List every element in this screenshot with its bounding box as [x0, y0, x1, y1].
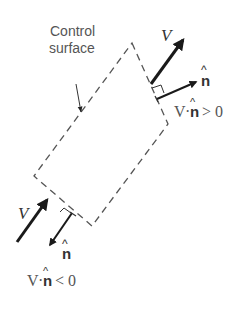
label-pointer-arrow [76, 84, 81, 112]
outflow-relation: V · n ^ > 0 [174, 96, 223, 120]
control-surface-label-line2: surface [49, 40, 95, 56]
svg-text:> 0: > 0 [202, 103, 223, 120]
control-surface-diagram: Control surface V n ^ V · n ^ > 0 V n ^ … [0, 0, 243, 312]
inflow-normal-arrow [50, 213, 72, 245]
inflow-normal-hat: ^ [62, 237, 68, 251]
inflow-velocity-label: V [18, 204, 31, 223]
svg-text:< 0: < 0 [55, 272, 76, 289]
svg-text:^: ^ [43, 265, 49, 277]
outflow-normal-hat: ^ [201, 63, 207, 77]
outflow-velocity-label: V [161, 26, 174, 45]
control-surface-label-line1: Control [50, 23, 95, 39]
inflow-relation: V · n ^ < 0 [27, 265, 76, 289]
control-surface-boundary [34, 43, 168, 226]
outflow-velocity-arrow [151, 40, 183, 84]
inflow-right-angle-mark [60, 208, 71, 213]
svg-text:^: ^ [190, 96, 196, 108]
